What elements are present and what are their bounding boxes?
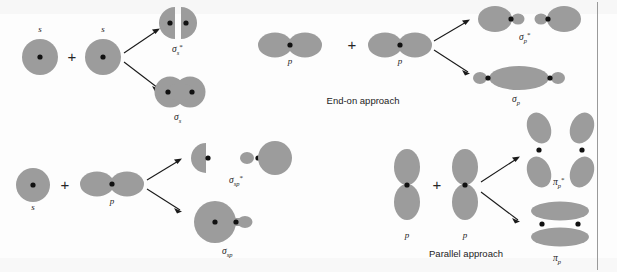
orbital-label-p1: p bbox=[287, 56, 293, 66]
orbital-label-p3: p bbox=[109, 196, 115, 206]
orbital-label-s1: s bbox=[38, 24, 42, 34]
nucleus-dot bbox=[37, 54, 42, 59]
orbital-label-p4: p bbox=[404, 230, 410, 240]
nucleus-dot bbox=[287, 42, 292, 47]
nucleus-dot bbox=[485, 75, 490, 80]
nucleus-dot bbox=[579, 147, 584, 152]
orbital-label-s2: s bbox=[101, 24, 105, 34]
nucleus-dot bbox=[462, 182, 467, 187]
plus-operator-4: + bbox=[433, 176, 442, 193]
nucleus-dot bbox=[536, 147, 541, 152]
nucleus-dot bbox=[167, 20, 172, 25]
nucleus-dot bbox=[205, 155, 210, 160]
page-top-smudge bbox=[0, 0, 617, 14]
nucleus-dot bbox=[183, 20, 188, 25]
nucleus-dot bbox=[30, 182, 35, 187]
caption-parallel-approach: Parallel approach bbox=[429, 248, 503, 259]
nucleus-dot bbox=[165, 89, 170, 94]
plus-operator-1: + bbox=[68, 48, 77, 65]
orbital-label-p2: p bbox=[397, 56, 403, 66]
plus-operator-3: + bbox=[61, 176, 70, 193]
nucleus-dot bbox=[189, 89, 194, 94]
page-bottom-smudge bbox=[0, 258, 617, 272]
nucleus-dot bbox=[233, 219, 238, 224]
orbital-overlap-figure: s + s σs* σs bbox=[0, 0, 617, 272]
nucleus-dot bbox=[545, 16, 550, 21]
nucleus-dot bbox=[539, 221, 544, 226]
nucleus-dot bbox=[212, 219, 217, 224]
nucleus-dot bbox=[109, 181, 114, 186]
orbital-label-s3: s bbox=[31, 202, 35, 212]
nucleus-dot bbox=[547, 75, 552, 80]
plus-operator-2: + bbox=[348, 36, 357, 53]
nucleus-dot bbox=[404, 182, 409, 187]
nucleus-dot bbox=[508, 16, 513, 21]
nucleus-dot bbox=[575, 221, 580, 226]
orbital-label-p5: p bbox=[462, 230, 468, 240]
nucleus-dot bbox=[397, 42, 402, 47]
nucleus-dot bbox=[100, 54, 105, 59]
caption-end-on-approach: End-on approach bbox=[327, 95, 400, 106]
